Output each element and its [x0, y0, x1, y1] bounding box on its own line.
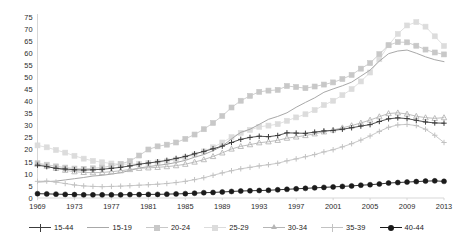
plus-light-marker-icon — [321, 223, 343, 233]
x-axis-tick-label: 1989 — [214, 202, 230, 211]
x-axis-tick-label: 2001 — [325, 202, 341, 211]
x-axis-tick-label: 1997 — [288, 202, 304, 211]
legend-item-label: 40-44 — [405, 223, 424, 232]
y-axis-tick-label: 40 — [24, 97, 32, 106]
x-axis-tick-label: 1977 — [103, 202, 119, 211]
y-axis-tick-label: 75 — [24, 13, 32, 22]
y-axis-tick-label: 45 — [24, 85, 32, 94]
series-25-29 — [35, 20, 447, 167]
line-chart: 051015202530354045505560657075 196919731… — [0, 0, 453, 237]
y-axis-tick-label: 10 — [24, 170, 32, 179]
legend-item-label: 25-29 — [229, 223, 248, 232]
legend-item-25-29[interactable]: 25-29 — [204, 223, 248, 233]
legend-item-15-19[interactable]: 15-19 — [87, 223, 131, 233]
legend-item-label: 15-44 — [54, 223, 73, 232]
x-axis-tick-label: 2009 — [399, 202, 415, 211]
y-axis-tick-label: 35 — [24, 109, 32, 118]
line-marker-icon — [87, 223, 109, 233]
y-axis-tick-label: 20 — [24, 145, 32, 154]
y-axis-tick-label: 5 — [28, 182, 32, 191]
x-axis-tick-label: 1985 — [177, 202, 193, 211]
series-40-44 — [35, 178, 447, 197]
y-axis: 051015202530354045505560657075 — [24, 13, 37, 203]
y-axis-tick-label: 15 — [24, 158, 32, 167]
y-axis-tick-label: 60 — [24, 49, 32, 58]
y-axis-tick-label: 65 — [24, 37, 32, 46]
x-axis-tick-label: 1993 — [251, 202, 267, 211]
series-20-24 — [35, 40, 447, 172]
y-axis-tick-label: 25 — [24, 133, 32, 142]
x-axis-tick-label: 2005 — [362, 202, 378, 211]
circle-marker-icon — [380, 223, 402, 233]
x-axis-tick-label: 1969 — [29, 202, 45, 211]
square-marker-icon — [146, 223, 168, 233]
y-axis-tick-label: 70 — [24, 25, 32, 34]
series-15-19 — [38, 50, 445, 182]
legend-item-label: 35-39 — [346, 223, 365, 232]
legend-item-35-39[interactable]: 35-39 — [321, 223, 365, 233]
y-axis-tick-label: 30 — [24, 121, 32, 130]
legend-item-40-44[interactable]: 40-44 — [380, 223, 424, 233]
series-layer — [35, 20, 447, 198]
x-axis-tick-label: 1981 — [140, 202, 156, 211]
legend-item-label: 30-34 — [288, 223, 307, 232]
square-light-marker-icon — [204, 223, 226, 233]
legend-item-label: 20-24 — [171, 223, 190, 232]
y-axis-tick-label: 55 — [24, 61, 32, 70]
chart-legend: 15-4415-1920-2425-2930-3435-3940-44 — [0, 218, 453, 237]
legend-item-20-24[interactable]: 20-24 — [146, 223, 190, 233]
legend-item-label: 15-19 — [112, 223, 131, 232]
x-axis: 1969197319771981198519891993199720012005… — [29, 198, 452, 211]
triangle-marker-icon — [263, 223, 285, 233]
chart-plot-area: 051015202530354045505560657075 196919731… — [0, 0, 453, 237]
plus-marker-icon — [29, 223, 51, 233]
y-axis-tick-label: 50 — [24, 73, 32, 82]
legend-item-15-44[interactable]: 15-44 — [29, 223, 73, 233]
legend-item-30-34[interactable]: 30-34 — [263, 223, 307, 233]
x-axis-tick-label: 2013 — [436, 202, 452, 211]
x-axis-tick-label: 1973 — [66, 202, 82, 211]
